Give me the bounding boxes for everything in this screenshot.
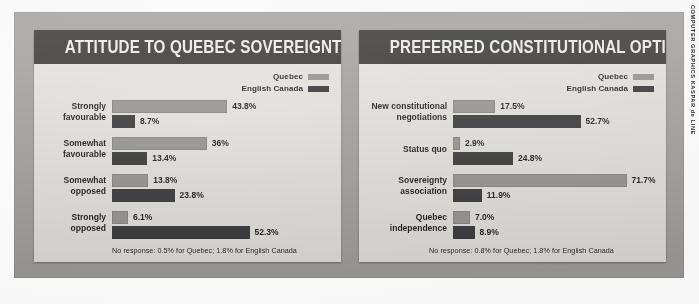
bar-quebec [453,174,627,187]
bar-line: 7.0% [453,211,662,224]
bar-value-label: 71.7% [632,175,656,185]
panel-header-left: ATTITUDE TO QUEBEC SOVEREIGNTY [34,30,341,64]
bar-group-label-line: Sovereignty [361,175,447,186]
bar-value-label: 43.8% [232,101,256,111]
bar-value-label: 7.0% [475,212,494,222]
footnote-right: No response: 0.8% for Quebec; 1.8% for E… [359,246,666,255]
bar-value-label: 24.8% [518,153,542,163]
bar-pair: 2.9%24.8% [453,137,662,167]
bar-english-canada [112,152,147,165]
bar-group-label: Somewhatopposed [38,175,106,197]
bar-group-label: Somewhatfavourable [38,138,106,160]
bar-line: 52.3% [112,226,337,239]
bar-value-label: 13.8% [153,175,177,185]
panel-header-right: PREFERRED CONSTITUTIONAL OPTION [359,30,666,64]
bar-rows-left: Stronglyfavourable43.8%8.7%Somewhatfavou… [34,100,341,248]
bar-quebec [453,211,470,224]
bar-quebec [112,174,148,187]
bar-line: 52.7% [453,115,662,128]
bar-line: 23.8% [112,189,337,202]
bar-group-label: Status quo [361,144,447,155]
bar-quebec [112,211,128,224]
legend-item-quebec: Quebec [567,72,654,81]
bar-group: Somewhatopposed13.8%23.8% [34,174,341,202]
chart-panel-option: PREFERRED CONSTITUTIONAL OPTION Quebec E… [359,30,666,262]
bar-line: 8.7% [112,115,337,128]
bar-line: 11.9% [453,189,662,202]
bar-line: 43.8% [112,100,337,113]
legend-swatch-english-canada [633,86,654,92]
bar-quebec [453,100,495,113]
bar-quebec [112,100,227,113]
bar-english-canada [453,226,475,239]
legend-item-english-canada: English Canada [242,84,329,93]
legend-item-english-canada: English Canada [567,84,654,93]
legend-label-english-canada: English Canada [242,84,303,93]
infographic-mount-board: ATTITUDE TO QUEBEC SOVEREIGNTY Quebec En… [14,12,684,278]
bar-group-label: Stronglyopposed [38,212,106,234]
bar-value-label: 52.3% [255,227,279,237]
bar-line: 8.9% [453,226,662,239]
bar-value-label: 23.8% [180,190,204,200]
panel-body-right: Quebec English Canada New constitutional… [359,64,666,262]
bar-value-label: 11.9% [487,190,511,200]
bar-group: Stronglyopposed6.1%52.3% [34,211,341,239]
bar-english-canada [453,189,482,202]
bar-value-label: 8.7% [140,116,159,126]
bar-value-label: 17.5% [500,101,524,111]
panel-title-left: ATTITUDE TO QUEBEC SOVEREIGNTY [65,36,311,58]
bar-group-label: New constitutionalnegotiations [361,101,447,123]
bar-group-label-line: opposed [38,223,106,234]
scanned-page: ATTITUDE TO QUEBEC SOVEREIGNTY Quebec En… [0,0,699,304]
bar-line: 17.5% [453,100,662,113]
bar-line: 24.8% [453,152,662,165]
bar-quebec [112,137,207,150]
bar-group-label-line: Quebec [361,212,447,223]
legend-swatch-quebec [633,74,654,80]
bar-line: 6.1% [112,211,337,224]
bar-group-label: Quebecindependence [361,212,447,234]
bar-group-label-line: Strongly [38,212,106,223]
bar-group-label-line: Somewhat [38,138,106,149]
bar-group-label-line: Strongly [38,101,106,112]
bar-group-label-line: favourable [38,149,106,160]
graphics-credit: COMPUTER GRAPHICS KASPAR de LINE [690,5,696,135]
bar-line: 71.7% [453,174,662,187]
bar-pair: 13.8%23.8% [112,174,337,204]
bar-group-label-line: favourable [38,112,106,123]
bar-group: Sovereigntyassociation71.7%11.9% [359,174,666,202]
bar-group-label-line: New constitutional [361,101,447,112]
bar-pair: 6.1%52.3% [112,211,337,241]
bar-group: Somewhatfavourable36%13.4% [34,137,341,165]
footnote-left: No response: 0.5% for Quebec; 1.8% for E… [34,246,341,255]
legend-label-english-canada: English Canada [567,84,628,93]
bar-value-label: 36% [212,138,229,148]
bar-line: 13.4% [112,152,337,165]
bar-pair: 7.0%8.9% [453,211,662,241]
bar-english-canada [112,226,250,239]
bar-english-canada [112,115,135,128]
panel-body-left: Quebec English Canada Stronglyfavourable… [34,64,341,262]
bar-quebec [453,137,460,150]
bar-group-label-line: independence [361,223,447,234]
legend-right: Quebec English Canada [567,72,654,96]
bar-group-label: Stronglyfavourable [38,101,106,123]
chart-panel-attitude: ATTITUDE TO QUEBEC SOVEREIGNTY Quebec En… [34,30,341,262]
bar-line: 36% [112,137,337,150]
bar-value-label: 6.1% [133,212,152,222]
legend-swatch-quebec [308,74,329,80]
legend-item-quebec: Quebec [242,72,329,81]
legend-left: Quebec English Canada [242,72,329,96]
bar-pair: 71.7%11.9% [453,174,662,204]
bar-group-label-line: opposed [38,186,106,197]
bar-english-canada [453,152,513,165]
bar-value-label: 8.9% [480,227,499,237]
bar-group: Stronglyfavourable43.8%8.7% [34,100,341,128]
bar-value-label: 13.4% [152,153,176,163]
bar-group-label: Sovereigntyassociation [361,175,447,197]
bar-group-label-line: negotiations [361,112,447,123]
bar-english-canada [112,189,175,202]
bar-rows-right: New constitutionalnegotiations17.5%52.7%… [359,100,666,248]
bar-group: Quebecindependence7.0%8.9% [359,211,666,239]
bar-group-label-line: association [361,186,447,197]
